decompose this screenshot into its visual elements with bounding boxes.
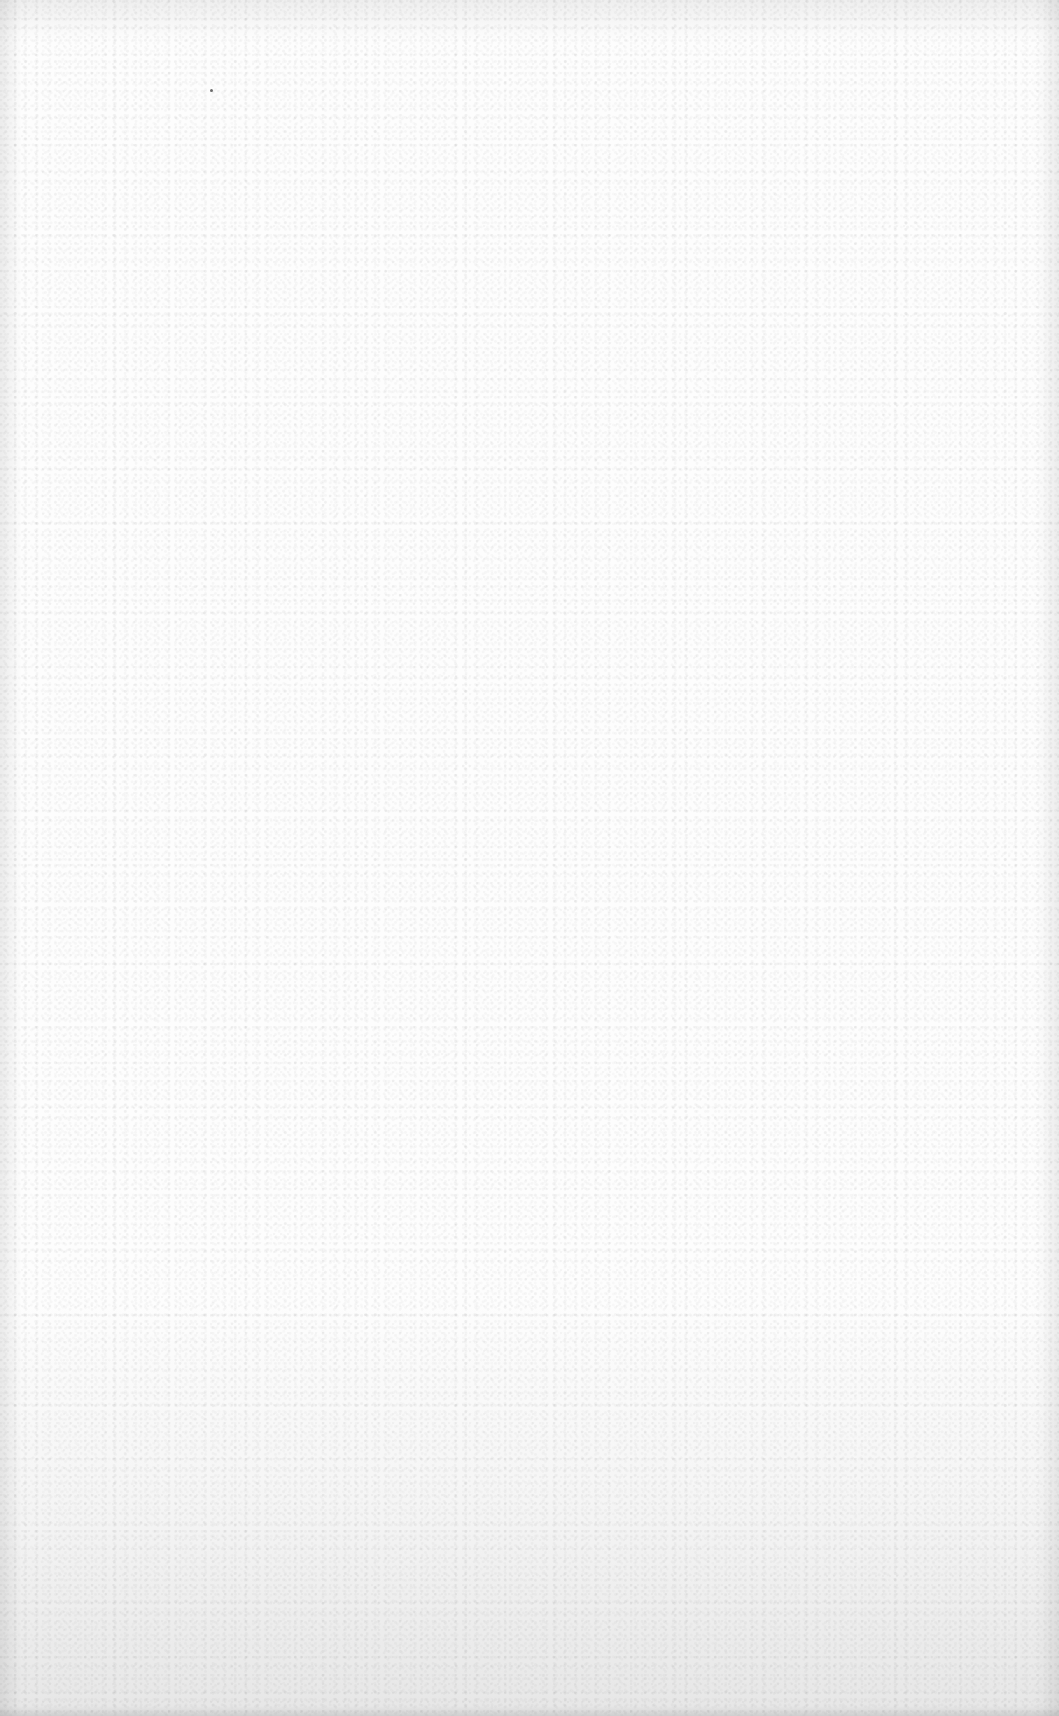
bottom-edge-shadow: [0, 1706, 1059, 1716]
edge-vignette: [0, 0, 1059, 1716]
paper-speck: [210, 89, 213, 92]
blank-paper-page: [0, 0, 1059, 1716]
